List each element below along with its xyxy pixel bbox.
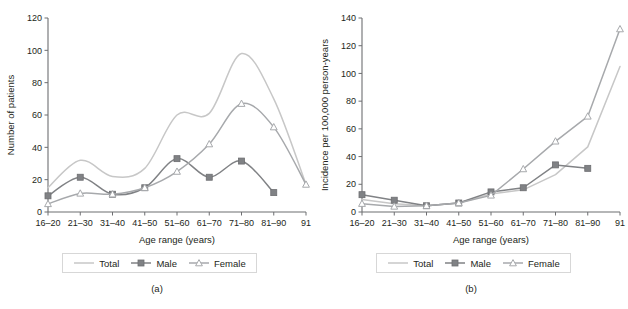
y-axis-tick-label: 100 bbox=[27, 46, 42, 56]
legend-swatch-square-icon bbox=[130, 258, 152, 268]
chart-legend-a: TotalMaleFemale bbox=[62, 253, 257, 273]
series-total bbox=[362, 67, 620, 206]
x-axis-tick-label: 51–60 bbox=[164, 218, 189, 228]
chart-legend-b: TotalMaleFemale bbox=[376, 253, 571, 273]
legend-item-label: Male bbox=[470, 258, 491, 269]
legend-item-label: Female bbox=[528, 258, 560, 269]
legend-swatch-none-icon bbox=[387, 258, 409, 268]
y-axis-tick-label: 60 bbox=[346, 124, 356, 134]
x-axis-tick-label: 41–50 bbox=[446, 218, 471, 228]
y-axis-tick-label: 140 bbox=[341, 13, 356, 23]
x-axis-tick-label: 21–30 bbox=[382, 218, 407, 228]
legend-swatch-triangle-icon bbox=[502, 258, 524, 268]
data-point-marker bbox=[585, 165, 591, 171]
series-line bbox=[362, 29, 620, 206]
y-axis-tick-label: 0 bbox=[37, 207, 42, 217]
legend-item-female: Female bbox=[188, 258, 246, 269]
x-axis-tick-label: 71–80 bbox=[229, 218, 254, 228]
series-female bbox=[45, 100, 310, 207]
series-line bbox=[362, 67, 620, 206]
x-axis-title: Age range (years) bbox=[139, 234, 215, 245]
y-axis-tick-label: 120 bbox=[341, 41, 356, 51]
data-point-marker bbox=[303, 181, 310, 187]
series-male bbox=[359, 162, 591, 209]
y-axis-tick-label: 60 bbox=[32, 110, 42, 120]
y-axis-tick-label: 40 bbox=[346, 152, 356, 162]
y-axis-tick-label: 80 bbox=[32, 78, 42, 88]
y-axis-tick-label: 80 bbox=[346, 96, 356, 106]
y-axis-title: Incidence per 100,000 person-years bbox=[319, 39, 330, 191]
x-axis-tick-label: 51–60 bbox=[478, 218, 503, 228]
x-axis-tick-label: 81–90 bbox=[575, 218, 600, 228]
series-female bbox=[359, 25, 624, 209]
x-axis-tick-label: 21–30 bbox=[68, 218, 93, 228]
legend-swatch-square-icon bbox=[444, 258, 466, 268]
chart-plot-a: 02040608010012016–2021–3031–4041–5051–60… bbox=[0, 0, 314, 250]
x-axis-tick-label: 41–50 bbox=[132, 218, 157, 228]
legend-item-total: Total bbox=[73, 258, 119, 269]
figure-container: 02040608010012016–2021–3031–4041–5051–60… bbox=[0, 0, 628, 309]
legend-item-female: Female bbox=[502, 258, 560, 269]
x-axis-tick-label: 91 bbox=[301, 218, 311, 228]
x-axis-title: Age range (years) bbox=[453, 234, 529, 245]
legend-item-male: Male bbox=[444, 258, 491, 269]
chart-panel-b: 02040608010012014016–2021–3031–4041–5051… bbox=[314, 0, 628, 309]
y-axis-tick-label: 0 bbox=[351, 207, 356, 217]
data-point-marker bbox=[239, 158, 245, 164]
series-line bbox=[48, 103, 306, 204]
data-point-marker bbox=[45, 193, 51, 199]
legend-item-total: Total bbox=[387, 258, 433, 269]
data-point-marker bbox=[359, 192, 365, 198]
data-point-marker bbox=[617, 25, 624, 31]
data-point-marker bbox=[520, 185, 526, 191]
y-axis-tick-label: 20 bbox=[346, 179, 356, 189]
data-point-marker bbox=[206, 174, 212, 180]
x-axis-tick-label: 31–40 bbox=[414, 218, 439, 228]
chart-plot-b: 02040608010012014016–2021–3031–4041–5051… bbox=[314, 0, 628, 250]
x-axis-tick-label: 91 bbox=[615, 218, 625, 228]
legend-swatch-none-icon bbox=[73, 258, 95, 268]
panel-caption-b: (b) bbox=[314, 283, 628, 294]
data-point-marker bbox=[271, 190, 277, 196]
y-axis-tick-label: 20 bbox=[32, 175, 42, 185]
x-axis-tick-label: 16–20 bbox=[35, 218, 60, 228]
y-axis-tick-label: 100 bbox=[341, 69, 356, 79]
legend-item-male: Male bbox=[130, 258, 177, 269]
y-axis-tick-label: 40 bbox=[32, 143, 42, 153]
x-axis-tick-label: 81–90 bbox=[261, 218, 286, 228]
data-point-marker bbox=[174, 156, 180, 162]
x-axis-tick-label: 16–20 bbox=[349, 218, 374, 228]
y-axis-tick-label: 120 bbox=[27, 13, 42, 23]
data-point-marker bbox=[174, 168, 181, 174]
legend-item-label: Total bbox=[99, 258, 119, 269]
x-axis-tick-label: 61–70 bbox=[197, 218, 222, 228]
panel-caption-a: (a) bbox=[0, 283, 314, 294]
data-point-marker bbox=[553, 162, 559, 168]
x-axis-tick-label: 31–40 bbox=[100, 218, 125, 228]
data-point-marker bbox=[584, 113, 591, 119]
legend-swatch-triangle-icon bbox=[188, 258, 210, 268]
x-axis-tick-label: 61–70 bbox=[511, 218, 536, 228]
y-axis-title: Number of patients bbox=[5, 75, 16, 156]
legend-item-label: Male bbox=[156, 258, 177, 269]
data-point-marker bbox=[77, 174, 83, 180]
chart-panel-a: 02040608010012016–2021–3031–4041–5051–60… bbox=[0, 0, 314, 309]
legend-item-label: Total bbox=[413, 258, 433, 269]
legend-item-label: Female bbox=[214, 258, 246, 269]
x-axis-tick-label: 71–80 bbox=[543, 218, 568, 228]
